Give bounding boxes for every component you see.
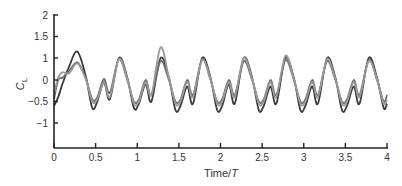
series-line-3 [54,47,387,106]
y-tick-label: 0 [42,75,48,86]
x-tick-label: 2 [218,152,224,163]
x-tick-label: 3 [301,152,307,163]
x-axis-title: Time/T [204,167,239,179]
y-tick-label: 1.5 [34,31,48,42]
series-layer [54,47,387,112]
x-tick-label: 0.5 [89,152,103,163]
x-tick-label: 1 [134,152,140,163]
y-tick-label: 2 [42,10,48,21]
x-tick-label: 4 [384,152,390,163]
y-tick-label: 1 [42,53,48,64]
cl-time-chart: 21.510−0.5−1 00.511.522.533.54 Time/T CL [0,0,402,186]
y-tick-label: −1 [37,118,49,129]
x-tick-label: 0 [51,152,57,163]
x-tick-label: 3.5 [338,152,352,163]
x-ticks: 00.511.522.533.54 [51,143,390,163]
y-axis-title: CL [14,77,29,90]
y-tick-label: −0.5 [28,96,48,107]
x-tick-label: 1.5 [172,152,186,163]
axes [54,14,388,148]
x-tick-label: 2.5 [255,152,269,163]
